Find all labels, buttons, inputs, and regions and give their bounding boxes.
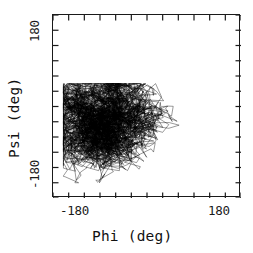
y-axis-title: Psi (deg) — [6, 78, 22, 158]
y-axis-tick-label-max: 180 — [27, 20, 42, 42]
x-axis-tick-label-max: 180 — [208, 203, 230, 218]
plot-canvas — [53, 15, 241, 198]
figure-root: -180 180 180 -180 Phi (deg) Psi (deg) — [0, 0, 253, 253]
trajectory-path — [63, 84, 179, 183]
plot-frame — [52, 14, 240, 197]
y-axis-tick-label-min: -180 — [27, 160, 42, 189]
x-axis-tick-label-min: -180 — [60, 203, 89, 218]
x-axis-title: Phi (deg) — [92, 228, 172, 244]
